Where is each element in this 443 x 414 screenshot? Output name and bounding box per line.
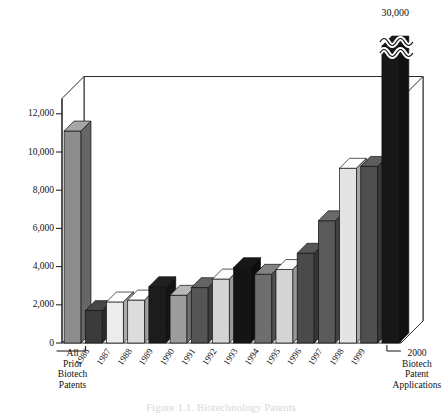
bar-front-face: [255, 274, 272, 343]
biotech-patents-chart: 02,0004,0006,0008,00010,00012,000 198619…: [0, 0, 443, 414]
bar-front-face: [234, 268, 251, 343]
bar-front-face: [191, 288, 208, 343]
y-tick-label-10000: 10,000: [28, 147, 54, 157]
break-value-label: 30,000: [381, 7, 409, 18]
left-group-line-0: All: [67, 348, 80, 358]
left-group-line-1: Prior: [63, 359, 83, 369]
bar-front-face: [340, 168, 357, 343]
bar-front-face: [64, 131, 81, 343]
figure-caption-text: Figure 1.1. Biotechnology Patents: [146, 401, 296, 413]
right-group-line-2: Patent: [405, 369, 429, 379]
bar-front-face: [382, 46, 399, 343]
bar-side-face: [399, 36, 409, 343]
bar-front-face: [149, 287, 166, 343]
bar-front-face: [297, 253, 314, 343]
right-group-line-3: Applications: [393, 380, 442, 390]
bar-front-face: [318, 221, 335, 343]
right-group-line-1: Biotech: [402, 359, 432, 369]
bar-front-face: [212, 279, 229, 343]
y-tick-label-8000: 8,000: [33, 185, 55, 195]
y-tick-label-6000: 6,000: [33, 223, 55, 233]
bar-front-face: [361, 166, 378, 343]
y-tick-label-4000: 4,000: [33, 261, 55, 271]
bar-front-face: [170, 295, 187, 343]
bar-2000-biotech-patent-applications: [382, 36, 409, 343]
left-group-line-2: Biotech: [58, 369, 88, 379]
right-group-line-0: 2000: [407, 348, 426, 358]
bar-front-face: [128, 300, 145, 343]
figure-caption: Figure 1.1. Biotechnology Patents: [146, 401, 296, 413]
left-group-line-3: Patents: [59, 380, 87, 390]
bar-front-face: [85, 311, 102, 343]
y-tick-label-12000: 12,000: [28, 108, 54, 118]
chart-canvas: 02,0004,0006,0008,00010,00012,000 198619…: [0, 0, 443, 414]
bar-front-face: [276, 269, 293, 343]
bar-front-face: [106, 302, 123, 343]
y-tick-label-0: 0: [49, 338, 54, 348]
y-tick-label-2000: 2,000: [33, 299, 55, 309]
